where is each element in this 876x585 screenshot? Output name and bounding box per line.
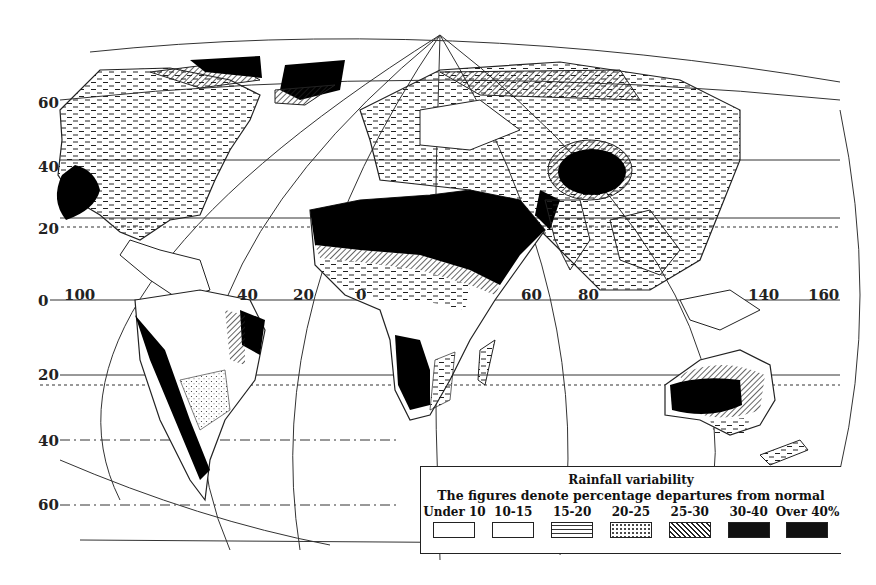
- longitude-label-100: 100: [64, 286, 95, 304]
- legend-item-15-20: 15-20: [543, 505, 601, 538]
- legend-subtitle: The figures denote percentage departures…: [421, 488, 841, 503]
- legend-item-20-25: 20-25: [602, 505, 660, 538]
- latitude-label-0: 0: [38, 292, 48, 310]
- latitude-label-40s: 40: [38, 432, 59, 450]
- north-america: [57, 56, 262, 300]
- longitude-label-60: 60: [521, 286, 542, 304]
- longitude-label-140: 140: [748, 286, 779, 304]
- swatch-solid: [786, 522, 828, 538]
- latitude-label-60s: 60: [38, 496, 59, 514]
- swatch-blank: [433, 522, 475, 538]
- legend-item-under-10: Under 10: [425, 505, 483, 538]
- longitude-label-80: 80: [578, 286, 599, 304]
- legend-title: Rainfall variability: [421, 473, 841, 487]
- swatch-blank: [492, 522, 534, 538]
- latitude-label-20s: 20: [38, 366, 59, 384]
- latitude-label-40n: 40: [38, 158, 59, 176]
- swatch-solid: [728, 522, 770, 538]
- legend-item-25-30: 25-30: [661, 505, 719, 538]
- longitude-label-20: 20: [293, 286, 314, 304]
- swatch-stipple: [610, 522, 652, 538]
- legend-item-over-40: Over 40%: [778, 505, 836, 538]
- map-legend: Rainfall variability The figures denote …: [420, 466, 841, 554]
- longitude-label-160: 160: [808, 286, 839, 304]
- longitude-label-40: 40: [237, 286, 258, 304]
- longitude-label-0: 0: [356, 286, 366, 304]
- swatch-dashes: [551, 522, 593, 538]
- swatch-hatch: [669, 522, 711, 538]
- latitude-label-20n: 20: [38, 220, 59, 238]
- latitude-label-60n: 60: [38, 94, 59, 112]
- legend-item-10-15: 10-15: [484, 505, 542, 538]
- legend-item-30-40: 30-40: [720, 505, 778, 538]
- australia: [665, 350, 808, 465]
- south-america: [135, 290, 265, 500]
